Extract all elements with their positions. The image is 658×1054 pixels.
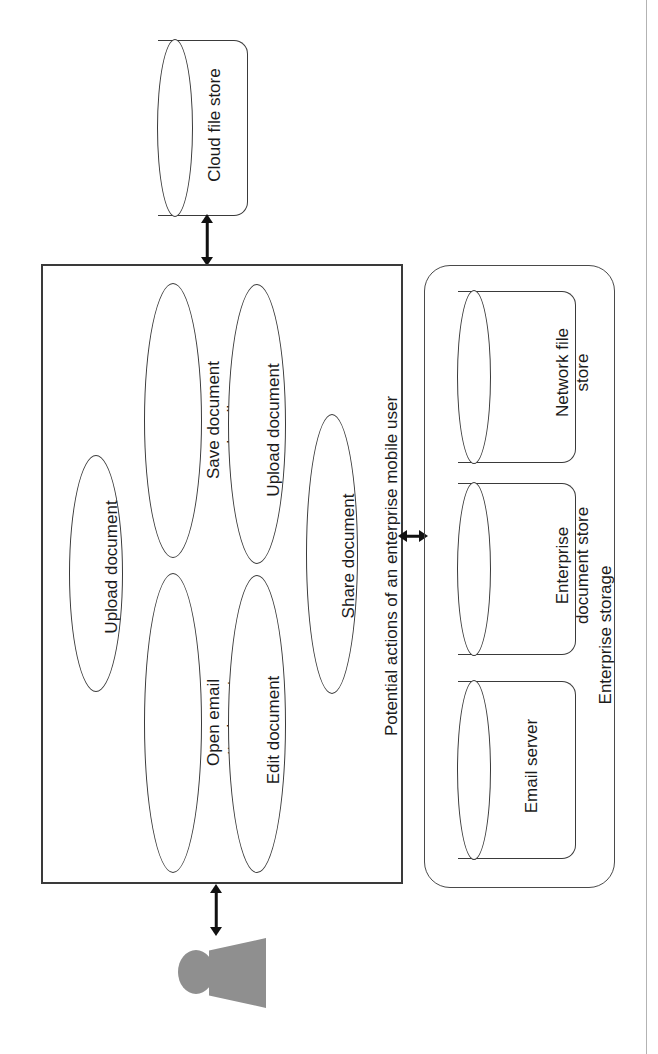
arrow-head-up xyxy=(201,214,213,223)
label-system-boundary: Potential actions of an enterprise mobil… xyxy=(382,266,402,866)
label-line-1: Network file store xyxy=(553,290,593,455)
label-network-file-store: Network file store xyxy=(513,290,633,455)
label-upload-document-2: Upload document xyxy=(264,315,284,545)
arrow-head-down xyxy=(210,927,222,936)
actor-head-icon xyxy=(178,950,214,994)
actor-body-icon xyxy=(209,938,266,1008)
arrow-head-up xyxy=(210,884,222,893)
arrow-actor-to-system xyxy=(205,884,227,936)
cylinder-cap xyxy=(457,290,491,464)
arrow-head-left xyxy=(398,530,407,542)
label-line-1: Enterprise document store xyxy=(553,483,593,648)
arrow-shaft xyxy=(215,890,218,930)
actor-enterprise-mobile-user[interactable] xyxy=(178,936,278,1014)
page-edge-rule xyxy=(646,0,647,1054)
cylinder-email-server xyxy=(458,681,576,859)
cylinder-cap xyxy=(457,680,491,860)
cylinder-cap xyxy=(157,39,193,217)
label-share-document: Share document xyxy=(339,436,359,676)
label-cloud-file-store: Cloud file store xyxy=(205,45,225,205)
arrow-shaft xyxy=(206,220,209,260)
cylinder-cloud-file-store xyxy=(158,40,248,216)
label-upload-document-1: Upload document xyxy=(102,462,122,672)
cylinder-cap xyxy=(457,482,491,656)
label-edit-document: Edit document xyxy=(264,605,284,855)
diagram-canvas: Cloud file store Potential actions of an… xyxy=(0,0,658,1054)
label-email-server: Email server xyxy=(522,681,542,851)
arrow-cloud-to-system xyxy=(196,214,218,266)
label-enterprise-document-store: Enterprise document store xyxy=(513,483,633,648)
